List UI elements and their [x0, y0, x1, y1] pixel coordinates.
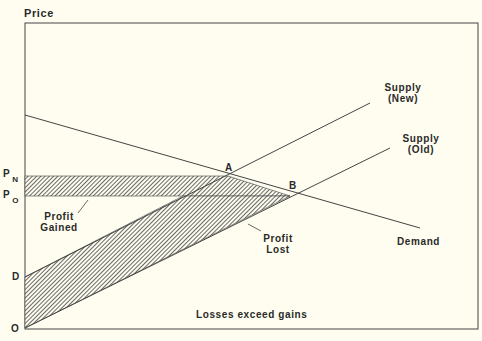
supply-new-label: Supply(New): [378, 82, 428, 104]
supply-old-curve: [25, 148, 390, 328]
po-label: PO: [3, 189, 17, 201]
point-b-label: B: [289, 180, 297, 191]
d-label: D: [12, 271, 20, 282]
y-axis-label: Price: [24, 8, 54, 19]
origin-label: O: [11, 323, 19, 334]
supply-old-label: Supply(Old): [396, 133, 446, 155]
demand-label: Demand: [397, 236, 440, 247]
caption: Losses exceed gains: [196, 309, 307, 320]
point-a-label: A: [225, 162, 233, 173]
pn-label: PN: [3, 168, 17, 180]
profit-gained-label: ProfitGained: [34, 211, 84, 233]
diagram-canvas: [0, 0, 482, 341]
profit-lost-leader: [248, 224, 261, 231]
profit-lost-label: ProfitLost: [258, 233, 298, 255]
